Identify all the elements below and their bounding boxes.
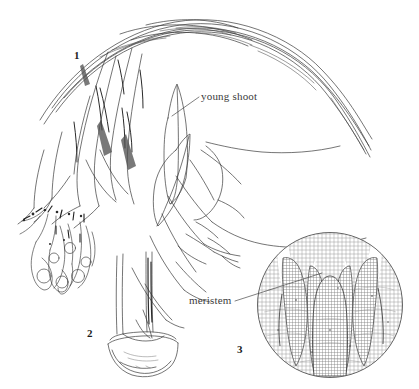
botanical-illustration: young shoot meristem 1 2 3	[0, 0, 419, 389]
figure-number-2: 2	[87, 328, 93, 339]
illustration-canvas	[0, 0, 419, 389]
label-young-shoot: young shoot	[201, 91, 257, 102]
figure-number-1: 1	[74, 50, 80, 61]
figure-number-3: 3	[237, 344, 243, 355]
label-meristem: meristem	[189, 295, 232, 306]
apical-dome-meristem	[313, 276, 348, 376]
